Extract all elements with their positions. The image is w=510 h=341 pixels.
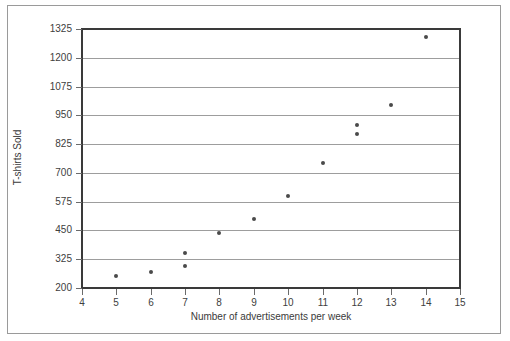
x-tick-mark xyxy=(391,289,392,295)
y-tick-label: 450 xyxy=(30,225,72,235)
y-tick-label: 575 xyxy=(30,197,72,207)
x-tick-mark xyxy=(185,289,186,295)
gridline-horizontal xyxy=(82,173,460,174)
x-tick-label: 10 xyxy=(276,298,300,308)
x-tick-label: 12 xyxy=(345,298,369,308)
gridline-horizontal xyxy=(82,58,460,59)
gridline-horizontal xyxy=(82,259,460,260)
y-tick-mark xyxy=(76,230,82,231)
gridline-horizontal xyxy=(82,87,460,88)
plot-border-right xyxy=(459,28,461,289)
x-tick-label: 11 xyxy=(311,298,335,308)
x-tick-mark xyxy=(254,289,255,295)
y-tick-mark xyxy=(76,144,82,145)
x-tick-label: 14 xyxy=(414,298,438,308)
x-tick-label: 7 xyxy=(173,298,197,308)
x-tick-mark xyxy=(219,289,220,295)
x-tick-mark xyxy=(460,289,461,295)
x-tick-label: 15 xyxy=(448,298,472,308)
y-tick-mark xyxy=(76,115,82,116)
y-tick-mark xyxy=(76,259,82,260)
x-tick-mark xyxy=(151,289,152,295)
y-tick-label: 825 xyxy=(30,139,72,149)
x-axis-line xyxy=(81,287,461,289)
y-tick-mark xyxy=(76,58,82,59)
x-tick-label: 6 xyxy=(139,298,163,308)
data-point xyxy=(424,35,428,39)
x-tick-mark xyxy=(323,289,324,295)
gridline-horizontal xyxy=(82,202,460,203)
y-tick-mark xyxy=(76,29,82,30)
plot-area xyxy=(82,29,460,288)
y-tick-label: 1200 xyxy=(30,53,72,63)
x-tick-label: 4 xyxy=(70,298,94,308)
x-tick-mark xyxy=(288,289,289,295)
x-axis-title: Number of advertisements per week xyxy=(82,311,460,322)
gridline-horizontal xyxy=(82,144,460,145)
y-tick-label: 700 xyxy=(30,168,72,178)
data-point xyxy=(252,217,256,221)
y-axis-line xyxy=(81,28,83,289)
y-axis-title: T-shirts Sold xyxy=(12,103,23,213)
x-tick-mark xyxy=(357,289,358,295)
data-point xyxy=(321,161,325,165)
y-tick-mark xyxy=(76,202,82,203)
y-tick-label: 325 xyxy=(30,254,72,264)
x-tick-label: 5 xyxy=(104,298,128,308)
data-point xyxy=(149,270,153,274)
data-point xyxy=(355,132,359,136)
x-tick-mark xyxy=(82,289,83,295)
y-tick-label: 200 xyxy=(30,283,72,293)
y-tick-mark xyxy=(76,173,82,174)
x-tick-label: 13 xyxy=(379,298,403,308)
gridline-horizontal xyxy=(82,115,460,116)
y-tick-label: 1325 xyxy=(30,24,72,34)
x-tick-mark xyxy=(426,289,427,295)
scatter-chart: 200325450575700825950107512001325 456789… xyxy=(0,0,510,341)
x-tick-label: 9 xyxy=(242,298,266,308)
gridline-horizontal xyxy=(82,230,460,231)
data-point xyxy=(355,123,359,127)
y-tick-label: 950 xyxy=(30,110,72,120)
y-tick-label: 1075 xyxy=(30,82,72,92)
y-tick-mark xyxy=(76,87,82,88)
x-tick-mark xyxy=(116,289,117,295)
x-tick-label: 8 xyxy=(207,298,231,308)
plot-border-top xyxy=(81,28,461,30)
